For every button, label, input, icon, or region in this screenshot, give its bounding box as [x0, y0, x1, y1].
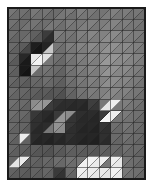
figure-root — [0, 0, 153, 191]
triangulated-mesh — [0, 0, 153, 191]
